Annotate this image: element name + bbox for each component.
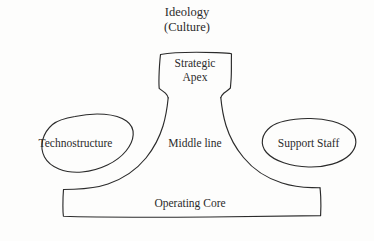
operating-core-label: Operating Core xyxy=(120,196,260,210)
ideology-line-2: (Culture) xyxy=(0,20,374,35)
strategic-apex-label: Strategic Apex xyxy=(158,56,232,84)
middle-line-label: Middle line xyxy=(145,136,245,150)
strategic-apex-line-2: Apex xyxy=(158,70,232,84)
support-staff-label: Support Staff xyxy=(262,136,355,150)
technostructure-label: Technostructure xyxy=(18,136,133,150)
diagram-canvas: Ideology (Culture) Strategic Apex Middle… xyxy=(0,0,374,241)
ideology-line-1: Ideology xyxy=(0,5,374,20)
ideology-label: Ideology (Culture) xyxy=(0,5,374,36)
strategic-apex-line-1: Strategic xyxy=(158,56,232,70)
